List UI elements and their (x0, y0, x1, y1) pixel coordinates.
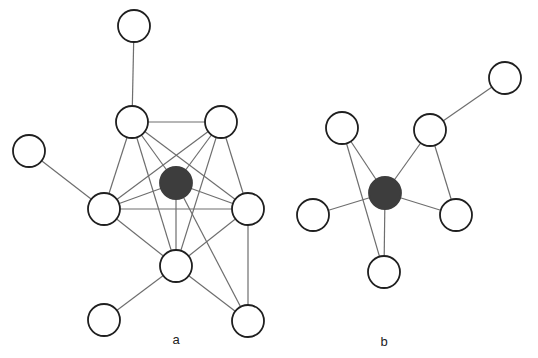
diagram-b-nodes (297, 62, 521, 288)
network-diagram-canvas: a b (0, 0, 538, 358)
diagram-a: a (13, 10, 264, 347)
diagram-b-label: b (380, 334, 387, 349)
node-a-ML (88, 193, 120, 225)
node-a-BL (88, 304, 120, 336)
node-b-S (297, 199, 329, 231)
node-a-BC (160, 250, 192, 282)
diagram-b: b (297, 62, 521, 349)
node-a-MR (232, 193, 264, 225)
diagram-a-edges (29, 26, 248, 321)
node-a-BR (232, 305, 264, 337)
hub-node-a-C (160, 167, 192, 199)
node-b-U (440, 199, 472, 231)
diagram-b-edges (313, 78, 505, 272)
hub-node-b-C (369, 177, 401, 209)
node-a-TR (205, 106, 237, 138)
node-a-L (13, 135, 45, 167)
node-b-Q (414, 114, 446, 146)
node-b-V (368, 256, 400, 288)
node-a-TL (116, 106, 148, 138)
diagram-a-nodes (13, 10, 264, 337)
node-a-T (118, 10, 150, 42)
node-b-P (326, 112, 358, 144)
node-b-R (489, 62, 521, 94)
diagram-a-label: a (172, 332, 180, 347)
